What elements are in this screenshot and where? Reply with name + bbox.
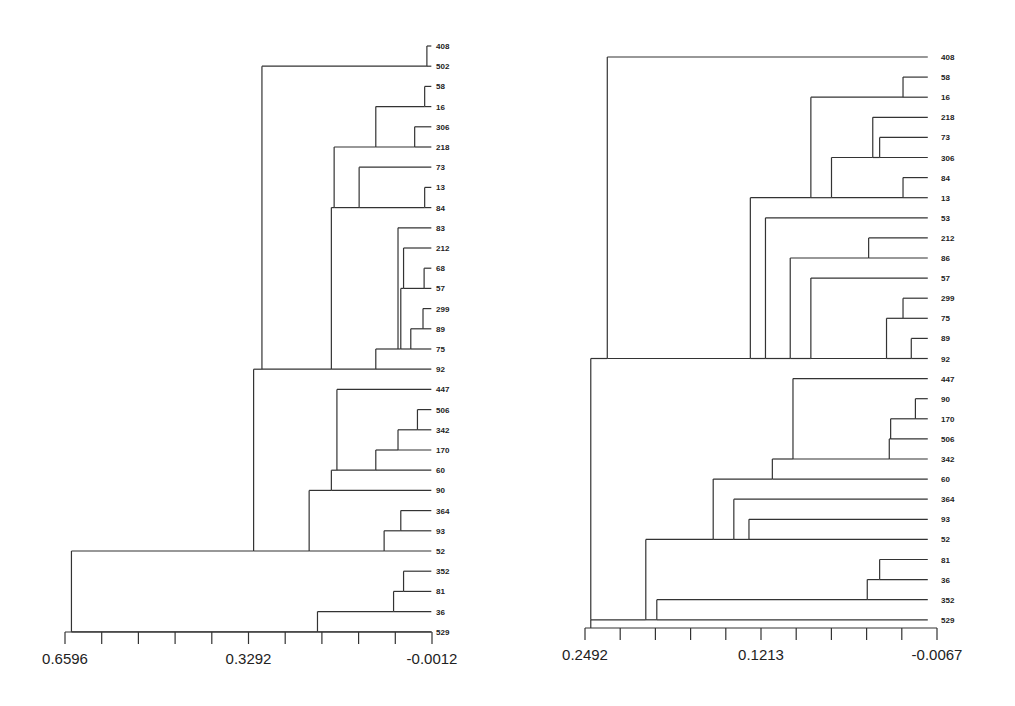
merge-branch: [262, 66, 427, 369]
left-x-axis: 0.65960.3292-0.0012: [42, 632, 457, 667]
merge-branch: [404, 571, 432, 591]
merge-branch: [811, 97, 903, 198]
merge-branch: [424, 268, 431, 288]
leaf-label: 408: [436, 42, 450, 51]
leaf-label: 212: [436, 244, 450, 253]
axis-tick-label: -0.0067: [912, 646, 963, 663]
leaf-label: 447: [436, 385, 450, 394]
left-dendrogram-plot: 4085025816306218731384832126857299897592…: [0, 0, 480, 680]
axis-tick-label: 0.6596: [42, 650, 88, 667]
leaf-label: 170: [436, 446, 450, 455]
merge-branch: [417, 410, 431, 430]
leaf-label: 73: [941, 133, 950, 142]
leaf-label: 16: [436, 103, 445, 112]
leaf-label: 89: [941, 334, 950, 343]
leaf-label: 212: [941, 234, 955, 243]
leaf-label: 342: [941, 455, 955, 464]
leaf-label: 529: [436, 628, 450, 637]
merge-branch: [425, 86, 432, 106]
leaf-label: 57: [941, 274, 950, 283]
merge-branch: [331, 208, 375, 370]
leaf-label: 447: [941, 375, 955, 384]
merge-branch: [591, 359, 646, 620]
leaf-label: 89: [436, 325, 445, 334]
leaf-label: 60: [941, 475, 950, 484]
leaf-label: 506: [941, 435, 955, 444]
merge-branch: [750, 198, 811, 359]
leaf-label: 58: [436, 82, 445, 91]
merge-branch: [427, 46, 431, 66]
merge-branch: [903, 178, 928, 198]
leaf-label: 13: [941, 194, 950, 203]
leaf-label: 352: [436, 567, 450, 576]
merge-branch: [880, 137, 928, 157]
leaf-label: 92: [941, 355, 950, 364]
leaf-label: 84: [436, 204, 445, 213]
merge-branch: [749, 519, 928, 539]
merge-branch: [887, 318, 912, 358]
leaf-label: 75: [941, 314, 950, 323]
leaf-label: 90: [436, 486, 445, 495]
merge-branch: [376, 349, 432, 369]
axis-tick-label: 0.2492: [562, 646, 608, 663]
axis-tick-label: 0.3292: [226, 650, 272, 667]
merge-branch: [903, 77, 928, 97]
merge-branch: [790, 258, 868, 359]
merge-branch: [334, 147, 376, 208]
leaf-label: 16: [941, 93, 950, 102]
merge-branch: [903, 298, 928, 318]
merge-branch: [331, 470, 431, 490]
merge-branch: [71, 551, 317, 632]
leaf-label: 86: [941, 254, 950, 263]
merge-branch: [376, 450, 432, 470]
merge-branch: [415, 127, 432, 147]
axis-tick-label: 0.1213: [738, 646, 784, 663]
merge-branch: [423, 309, 431, 329]
leaf-label: 306: [436, 123, 450, 132]
merge-branch: [657, 600, 928, 620]
right-dendrogram: 4085816218733068413532128657299758992447…: [540, 0, 1015, 680]
merge-branch: [915, 399, 927, 419]
leaf-label: 218: [941, 113, 955, 122]
leaf-label: 53: [941, 214, 950, 223]
leaf-label: 93: [436, 527, 445, 536]
left-dendrogram: 4085025816306218731384832126857299897592…: [0, 0, 480, 680]
leaf-label: 83: [436, 224, 445, 233]
leaf-label: 84: [941, 174, 950, 183]
leaf-label: 36: [436, 608, 445, 617]
merge-branch: [713, 479, 772, 539]
figure-caption: [0, 686, 1015, 706]
leaf-label: 364: [941, 495, 955, 504]
merge-branch: [891, 419, 928, 439]
leaf-label: 408: [941, 53, 955, 62]
leaf-label: 52: [941, 535, 950, 544]
merge-branch: [254, 369, 310, 551]
merge-branch: [359, 167, 431, 207]
merge-branch: [772, 459, 927, 479]
leaf-label: 90: [941, 395, 950, 404]
right-dendrogram-plot: 4085816218733068413532128657299758992447…: [540, 0, 1015, 680]
leaf-label: 299: [941, 294, 955, 303]
leaf-label: 36: [941, 576, 950, 585]
merge-branch: [384, 531, 431, 551]
leaf-label: 68: [436, 264, 445, 273]
leaf-label: 57: [436, 284, 445, 293]
leaf-label: 13: [436, 183, 445, 192]
merge-branch: [398, 430, 431, 450]
leaf-label: 92: [436, 365, 445, 374]
merge-branch: [411, 329, 432, 349]
leaf-label: 502: [436, 62, 450, 71]
merge-branch: [867, 580, 928, 600]
merge-branch: [880, 560, 928, 580]
leaf-label: 60: [436, 466, 445, 475]
merge-branch: [425, 187, 432, 207]
leaf-label: 299: [436, 305, 450, 314]
leaf-label: 75: [436, 345, 445, 354]
leaf-label: 52: [436, 547, 445, 556]
merge-branch: [869, 238, 928, 258]
merge-branch: [394, 591, 432, 611]
leaf-label: 306: [941, 154, 955, 163]
leaf-label: 342: [436, 426, 450, 435]
leaf-label: 364: [436, 507, 450, 516]
leaf-label: 81: [941, 556, 950, 565]
